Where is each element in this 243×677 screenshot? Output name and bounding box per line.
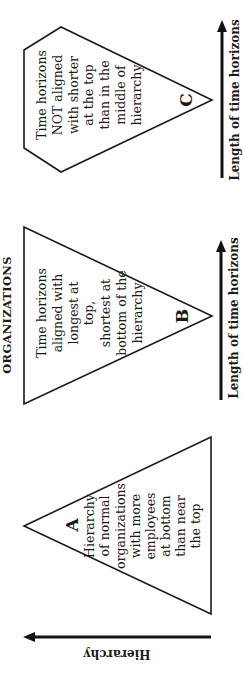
shape-c-text-line: middle of bbox=[113, 64, 128, 125]
shape-c-text-line: with shorter bbox=[66, 56, 81, 134]
shape-b-text-line: bottom of the bbox=[114, 270, 129, 356]
arrow-up-icon bbox=[216, 240, 226, 252]
shape-b-text-line: longest at bbox=[66, 282, 81, 345]
shape-b: Time horizons aligned with longest at to… bbox=[24, 227, 212, 404]
shape-a-text-line: Hierarchy bbox=[82, 493, 97, 558]
arrow-up-icon bbox=[217, 20, 227, 32]
shape-a-text-line: the top bbox=[188, 504, 203, 549]
shape-c-text-line: NOT aligned bbox=[50, 55, 65, 135]
time-horizon-label-c: Length of time horizons bbox=[228, 19, 242, 181]
shape-c-text-line: at the top bbox=[81, 64, 96, 125]
shape-b-text-line: hierarchy bbox=[130, 282, 145, 344]
shape-a-letter: A bbox=[62, 518, 82, 533]
shape-a-text-line: than near bbox=[173, 495, 188, 556]
shape-b-text-line: top, bbox=[81, 301, 96, 326]
shape-c-text-line: Time horizons bbox=[34, 50, 49, 140]
diagram-canvas: Time horizons NOT aligned with shorter a… bbox=[0, 0, 243, 677]
shape-a-text-line: with more bbox=[128, 494, 143, 559]
time-horizon-label-b: Length of time horizons bbox=[227, 237, 241, 399]
time-horizon-axis-b: Length of time horizons bbox=[216, 237, 241, 400]
shape-b-letter: B bbox=[172, 309, 192, 323]
shape-c-letter: C bbox=[176, 93, 196, 107]
shape-a-text-line: organizations bbox=[113, 483, 128, 569]
shape-b-text-line: aligned with bbox=[50, 274, 65, 353]
shape-b-text-line: shortest at bbox=[98, 279, 113, 347]
shape-a-text-line: employees bbox=[143, 492, 158, 559]
hierarchy-axis: Hierarchy bbox=[23, 632, 211, 661]
shape-c-text-line: hierarchy bbox=[129, 64, 144, 126]
time-horizon-axis-c: Length of time horizons bbox=[217, 19, 242, 181]
shape-c-text-line: than in the bbox=[97, 60, 112, 129]
diagram-title: ORGANIZATIONS bbox=[0, 256, 14, 374]
hierarchy-label: Hierarchy bbox=[83, 647, 151, 661]
shape-a: A Hierarchy of normal organizations with… bbox=[24, 437, 211, 614]
shape-a-text-line: at bottom bbox=[158, 495, 173, 557]
arrow-left-icon bbox=[23, 632, 35, 642]
diagram: Time horizons NOT aligned with shorter a… bbox=[0, 0, 243, 677]
shape-c: Time horizons NOT aligned with shorter a… bbox=[24, 27, 212, 172]
shape-a-text-line: of normal bbox=[97, 496, 112, 557]
shape-b-text-line: Time horizons bbox=[34, 268, 49, 358]
